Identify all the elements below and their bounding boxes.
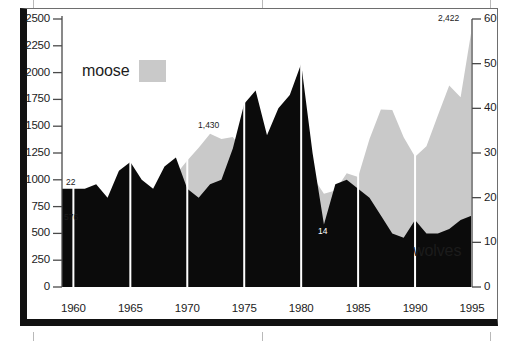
- legend-wolves-label: wolves: [413, 242, 461, 260]
- y-axis-left-label-2500: 2500: [2, 12, 50, 24]
- y-axis-left-label-2250: 2250: [2, 39, 50, 51]
- annotation-576: 576: [64, 212, 78, 222]
- y-axis-left-label-1000: 1000: [2, 173, 50, 185]
- legend-wolves: wolves: [378, 238, 461, 263]
- y-axis-right-label-40: 40: [484, 101, 514, 113]
- y-axis-left-label-250: 250: [2, 253, 50, 265]
- y-axis-right-label-30: 30: [484, 146, 514, 158]
- x-axis-label-1975: 1975: [218, 302, 270, 314]
- legend-moose: moose: [82, 60, 166, 82]
- y-axis-left-label-0: 0: [2, 280, 50, 292]
- x-axis-label-1985: 1985: [332, 302, 384, 314]
- figure-frame: [20, 8, 498, 326]
- x-axis-label-1970: 1970: [161, 302, 213, 314]
- annotation-50: 50: [296, 51, 305, 61]
- x-axis-label-1960: 1960: [47, 302, 99, 314]
- legend-moose-swatch: [139, 60, 166, 82]
- x-axis-label-1965: 1965: [104, 302, 156, 314]
- annotation-1430: 1,430: [198, 120, 219, 130]
- y-axis-left-label-750: 750: [2, 200, 50, 212]
- annotation-2422: 2,422: [438, 13, 459, 23]
- y-axis-left-label-1250: 1250: [2, 146, 50, 158]
- y-axis-left-label-1750: 1750: [2, 92, 50, 104]
- x-axis-label-1995: 1995: [446, 302, 498, 314]
- y-axis-right-label-60: 60: [484, 12, 514, 24]
- y-axis-left-label-2000: 2000: [2, 66, 50, 78]
- annotation-14: 14: [318, 226, 327, 236]
- y-axis-right-label-50: 50: [484, 57, 514, 69]
- legend-moose-label: moose: [82, 62, 130, 80]
- x-axis-label-1980: 1980: [275, 302, 327, 314]
- y-axis-right-label-20: 20: [484, 191, 514, 203]
- x-axis-label-1990: 1990: [389, 302, 441, 314]
- cropmark-bottom-mid: [262, 332, 263, 341]
- y-axis-right-label-10: 10: [484, 235, 514, 247]
- y-axis-right-label-0: 0: [484, 280, 514, 292]
- y-axis-left-label-1500: 1500: [2, 119, 50, 131]
- legend-wolves-swatch: [378, 238, 404, 263]
- cropmark-bottom-right: [490, 332, 491, 341]
- annotation-22: 22: [66, 177, 75, 187]
- cropmark-bottom-left: [33, 332, 34, 341]
- y-axis-left-label-500: 500: [2, 226, 50, 238]
